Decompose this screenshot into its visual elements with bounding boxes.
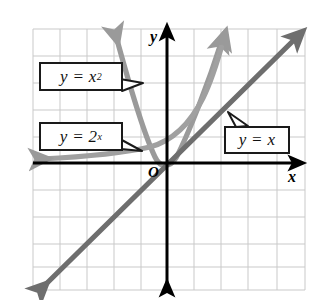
callout-exponential-text: y = 2 xyxy=(60,127,98,147)
callout-parabola-exponent: 2 xyxy=(97,71,102,82)
x-axis-label: x xyxy=(288,168,296,186)
callout-parabola[interactable]: y = x2 xyxy=(39,62,123,91)
callout-parabola-text: y = x xyxy=(60,67,97,87)
callout-line-text: y = x xyxy=(239,130,276,150)
callout-exponential[interactable]: y = 2x xyxy=(39,122,123,151)
callout-exponential-exponent: x xyxy=(97,131,102,142)
origin-label: O xyxy=(148,164,159,181)
y-axis-label: y xyxy=(150,28,157,46)
graph-figure: y = x2 y = 2x y = x y x O xyxy=(0,0,319,300)
callout-line[interactable]: y = x xyxy=(224,126,290,154)
